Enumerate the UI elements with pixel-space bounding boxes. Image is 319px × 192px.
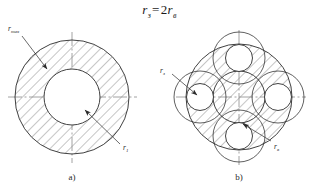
diagram-b-small-circle-south	[226, 123, 253, 150]
diagram-a-rmax-label: rmax	[8, 24, 20, 34]
caption-a: a)	[60, 172, 84, 182]
technical-drawing-svg: rmax r1	[0, 0, 319, 192]
diagram-b-group: rз rв	[160, 30, 306, 165]
diagram-b-small-circle-north	[226, 45, 253, 72]
diagram-b-small-circle-east	[265, 84, 292, 111]
diagram-a-group: rmax r1	[8, 24, 137, 163]
diagram-b-rv-label: rв	[274, 142, 280, 152]
caption-b: b)	[227, 172, 251, 182]
diagram-b-small-circle-west	[187, 84, 214, 111]
diagram-b-rz-label: rз	[160, 66, 165, 76]
figure-container: rз=2rв	[0, 0, 319, 192]
diagram-a-r1-label: r1	[123, 143, 128, 153]
